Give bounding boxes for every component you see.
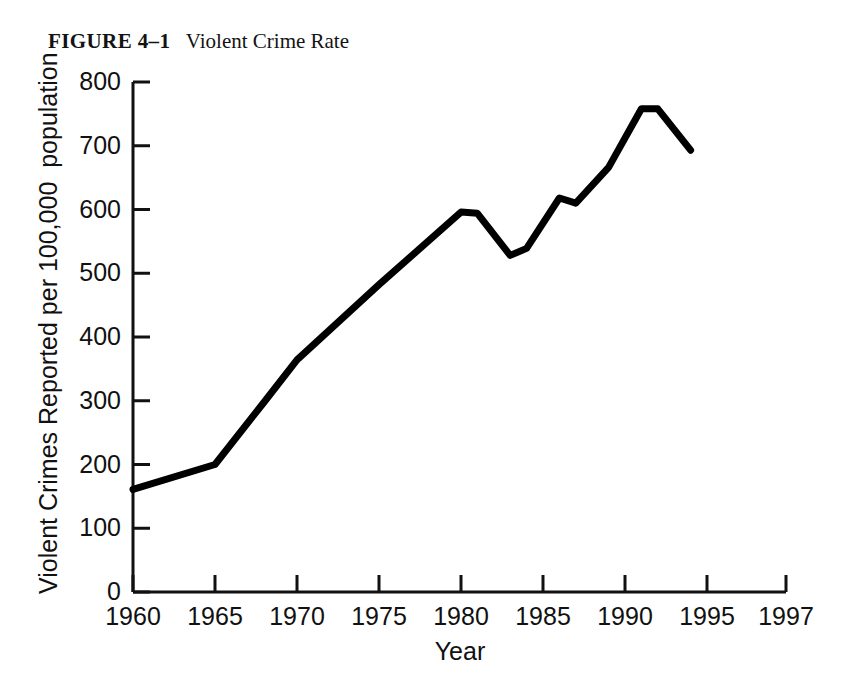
x-tick-label: 1997 xyxy=(731,604,841,629)
x-axis-title: Year xyxy=(390,637,530,665)
y-axis-title: Violent Crimes Reported per 100,000 popu… xyxy=(34,74,62,594)
line-chart: 0100200300400500600700800 19601965197019… xyxy=(0,0,853,696)
plot-canvas xyxy=(0,0,853,696)
x-tick-marks xyxy=(133,575,786,592)
data-series-line xyxy=(133,109,691,490)
y-tick-marks xyxy=(133,82,150,592)
